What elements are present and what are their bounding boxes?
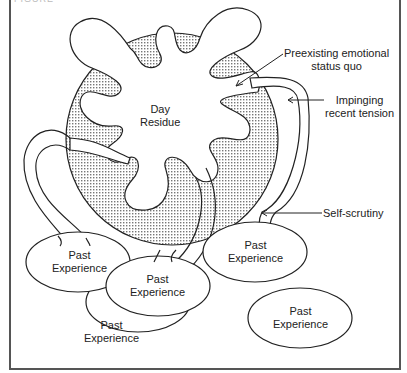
annotation-self-scrutiny: Self-scrutiny — [323, 207, 384, 220]
annotation-preexisting-line2: status quo — [284, 60, 389, 73]
pe1-line2: Experience — [52, 262, 107, 275]
day-residue-label-line1: Day — [140, 103, 180, 116]
past-experience-label-1: Past Experience — [52, 249, 107, 275]
pe1-line1: Past — [52, 249, 107, 262]
annotation-impinging-line2: recent tension — [325, 107, 394, 120]
annotation-self-scrutiny-line1: Self-scrutiny — [323, 207, 384, 220]
day-residue-label-line2: Residue — [140, 116, 180, 129]
annotation-preexisting: Preexisting emotional status quo — [284, 47, 389, 73]
pe2-line2: Experience — [84, 332, 139, 345]
pe4-line1: Past — [228, 239, 283, 252]
pe3-line1: Past — [130, 273, 185, 286]
pe3-line2: Experience — [130, 286, 185, 299]
past-experience-label-5: Past Experience — [273, 305, 328, 331]
pe5-line1: Past — [273, 305, 328, 318]
annotation-impinging: Impinging recent tension — [325, 94, 394, 120]
pe5-line2: Experience — [273, 318, 328, 331]
pe4-line2: Experience — [228, 252, 283, 265]
pe2-line1: Past — [84, 319, 139, 332]
past-experience-label-3: Past Experience — [130, 273, 185, 299]
annotation-preexisting-line1: Preexisting emotional — [284, 47, 389, 60]
past-experience-label-4: Past Experience — [228, 239, 283, 265]
day-residue-label: Day Residue — [140, 103, 180, 129]
past-experience-label-2: Past Experience — [84, 319, 139, 345]
annotation-impinging-line1: Impinging — [325, 94, 394, 107]
